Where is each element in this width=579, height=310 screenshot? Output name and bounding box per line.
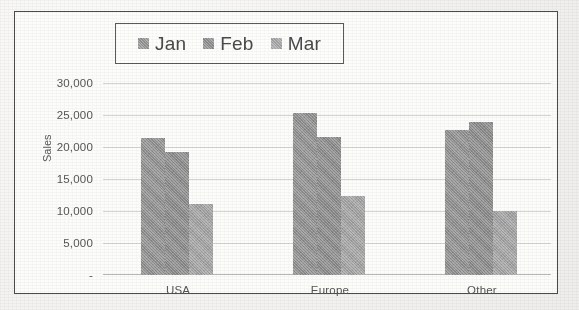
legend-label-feb: Feb [220,34,253,53]
bar-group-other [445,83,517,275]
bar-other-feb[interactable] [469,122,493,275]
x-label-other: Other [467,284,497,296]
plot-area [103,83,551,275]
legend-swatch-jan [138,38,149,49]
bar-group-usa [141,83,213,275]
chart-frame: Jan Feb Mar Sales 30,000 25,000 20,000 1… [14,11,558,294]
bar-usa-feb[interactable] [165,152,189,275]
chart-legend: Jan Feb Mar [115,23,344,64]
bar-europe-mar[interactable] [341,196,365,275]
y-tick-15000: 15,000 [57,173,93,185]
scanned-chart-image: Jan Feb Mar Sales 30,000 25,000 20,000 1… [0,0,579,310]
x-axis-tick-labels: USA Europe Other [103,284,551,304]
bar-group-europe [293,83,365,275]
bar-usa-jan[interactable] [141,138,165,275]
y-tick-20000: 20,000 [57,141,93,153]
legend-label-jan: Jan [155,34,186,53]
bar-usa-mar[interactable] [189,204,213,275]
legend-swatch-feb [203,38,214,49]
y-axis-tick-labels: 30,000 25,000 20,000 15,000 10,000 5,000… [15,83,99,275]
y-tick-10000: 10,000 [57,205,93,217]
legend-label-mar: Mar [288,34,321,53]
bar-europe-jan[interactable] [293,113,317,275]
bar-other-mar[interactable] [493,211,517,275]
y-tick-25000: 25,000 [57,109,93,121]
bar-other-jan[interactable] [445,130,469,275]
y-tick-zero: - [89,269,93,281]
legend-item-jan: Jan [138,34,186,53]
y-tick-30000: 30,000 [57,77,93,89]
y-tick-5000: 5,000 [63,237,93,249]
legend-swatch-mar [271,38,282,49]
x-label-usa: USA [166,284,190,296]
bar-europe-feb[interactable] [317,137,341,275]
x-label-europe: Europe [311,284,349,296]
legend-item-feb: Feb [203,34,253,53]
legend-item-mar: Mar [271,34,321,53]
